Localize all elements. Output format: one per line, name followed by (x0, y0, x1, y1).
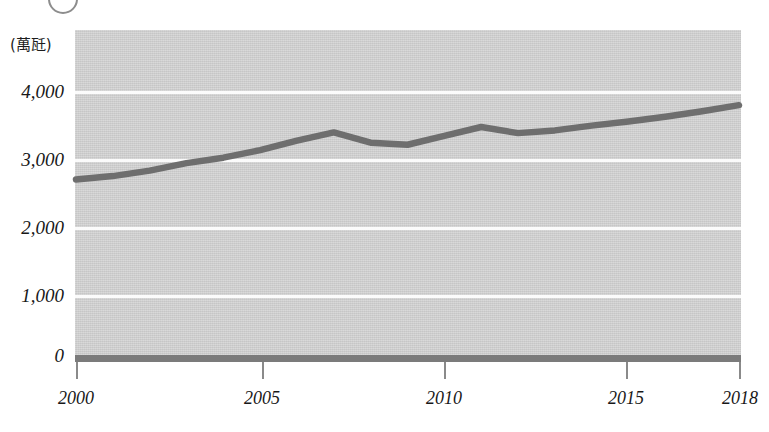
chart-figure: (萬瓩) 4,000 3,000 2,000 1,000 0 2000 2005… (0, 0, 769, 432)
data-line-installed-capacity (76, 105, 739, 179)
y-tick-label-0: 0 (0, 345, 64, 367)
x-tick-label-2010: 2010 (404, 388, 484, 409)
x-tick-label-2015: 2015 (586, 388, 666, 409)
y-tick-label-2000: 2,000 (0, 217, 64, 239)
y-tick-label-3000: 3,000 (0, 149, 64, 171)
x-tick-label-2018: 2018 (700, 388, 769, 409)
series-layer (0, 0, 769, 432)
x-tick-label-2005: 2005 (222, 388, 302, 409)
y-tick-label-1000: 1,000 (0, 285, 64, 307)
x-tick-label-2000: 2000 (36, 388, 116, 409)
y-tick-label-4000: 4,000 (0, 81, 64, 103)
